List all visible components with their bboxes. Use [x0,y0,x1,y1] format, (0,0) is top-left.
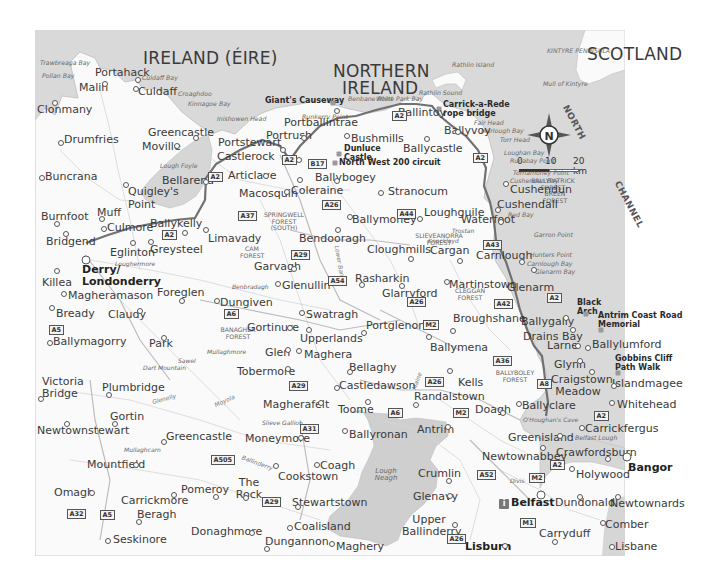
town-marker [47,340,53,346]
town-pomeroy[interactable]: Pomeroy [181,484,229,495]
poi-nw200[interactable]: North West 200 circuit [339,159,441,168]
poi-antrim-coast-road[interactable]: Antrim Coast Road Memorial [598,312,684,330]
poi-marker-antrim-coast-road[interactable] [599,328,604,333]
town-belfast[interactable]: Belfast [511,497,555,508]
town-drumfries[interactable]: Drumfries [64,134,119,145]
tourist-info-icon[interactable]: i [499,499,509,509]
town-derry[interactable]: Derry/ Londonderry [82,264,152,288]
town-marker [500,410,506,416]
town-toome[interactable]: Toome [338,404,374,415]
town-whitehead[interactable]: Whitehead [617,399,676,410]
town-stewartstown[interactable]: Stewartstown [292,497,367,508]
town-carryduff[interactable]: Carryduff [539,528,590,539]
town-cushendall[interactable]: Cushendall [497,199,558,210]
town-maghery[interactable]: Maghery [336,541,384,552]
town-burnfoot[interactable]: Burnfoot [41,211,88,222]
town-upperlands[interactable]: Upperlands [300,333,363,344]
town-articlave[interactable]: Articlave [228,170,277,181]
town-craigstown-meadow[interactable]: Craigstown Meadow [551,374,605,397]
town-bellaghy[interactable]: Bellaghy [349,362,397,373]
town-bready[interactable]: Bready [56,308,95,319]
town-islandmagee[interactable]: Islandmagee [612,378,683,389]
town-ballyronan[interactable]: Ballyronan [349,429,408,440]
town-marker [299,310,305,316]
town-bridgend[interactable]: Bridgend [46,236,96,247]
town-coalisland[interactable]: Coalisland [294,521,351,532]
town-greencastle-n[interactable]: Greencastle [148,127,214,138]
town-ballyclare[interactable]: Ballyclare [522,400,576,411]
town-clonmany[interactable]: Clonmany [37,104,92,115]
town-greysteel[interactable]: Greysteel [150,244,203,255]
town-quigleys-point[interactable]: Quigley's Point [128,186,188,211]
town-kells[interactable]: Kells [458,377,483,388]
town-carrickfergus[interactable]: Carrickfergus [585,423,658,434]
poi-marker-dunluce-castle[interactable] [337,152,342,157]
town-cargan[interactable]: Cargan [430,245,469,256]
town-greencastle-s[interactable]: Greencastle [166,431,232,442]
poi-gobbins[interactable]: Gobbins Cliff Path Walk [615,355,695,373]
town-magheramason[interactable]: Magheramason [68,290,153,301]
town-lisbane[interactable]: Lisbane [615,541,657,552]
town-bangor[interactable]: Bangor [628,462,673,473]
town-glenullin[interactable]: Glenullin [282,280,330,291]
town-loughguile[interactable]: Loughguile [424,207,484,218]
town-ballycastle[interactable]: Ballycastle [403,143,463,154]
town-dundonald[interactable]: Dundonald [555,497,615,508]
town-glenarm[interactable]: Glenarm [507,282,554,293]
town-marker [365,399,371,405]
town-newtownards[interactable]: Newtownards [610,498,685,509]
poi-marker-black-arch[interactable] [584,312,589,317]
town-foreglen[interactable]: Foreglen [157,287,205,298]
town-eglinton[interactable]: Eglinton [110,247,155,258]
town-marker [161,439,167,445]
town-cloughmills[interactable]: Cloughmills [367,244,431,255]
poi-marker-giants-causeway[interactable] [331,101,336,106]
town-carrickmore[interactable]: Carrickmore [121,495,188,506]
town-stranocum[interactable]: Stranocum [388,186,448,197]
town-dungannon[interactable]: Dungannon [265,536,329,547]
town-coleraine[interactable]: Coleraine [291,185,343,196]
town-victoria-bridge[interactable]: Victoria Bridge [42,376,87,399]
town-limavady[interactable]: Limavady [208,233,261,244]
town-randalstown[interactable]: Randalstown [414,391,485,402]
town-beragh[interactable]: Beragh [137,509,177,520]
town-cushendun[interactable]: Cushendun [510,184,572,195]
town-killea[interactable]: Killea [42,277,72,288]
town-holywood[interactable]: Holywood [576,469,630,480]
town-buncrana[interactable]: Buncrana [45,171,98,182]
town-ballyvoy[interactable]: Ballyvoy [444,125,491,136]
town-bendooragh[interactable]: Bendooragh [299,233,366,244]
road-shield-a6: A6 [224,309,239,319]
town-swatragh[interactable]: Swatragh [306,309,358,320]
town-ballymagorry[interactable]: Ballymagorry [53,336,126,347]
town-the-rock[interactable]: The Rock [234,477,264,500]
town-ballylumford[interactable]: Ballylumford [592,339,662,350]
town-ballykelly[interactable]: Ballykelly [150,218,202,229]
town-seskinore[interactable]: Seskinore [113,534,167,545]
town-portballintrae[interactable]: Portballintrae [284,117,358,128]
town-marker-major [82,256,91,265]
town-maghera[interactable]: Maghera [304,349,352,360]
town-marker [64,421,70,427]
town-greenisland[interactable]: Greenisland [508,432,574,443]
town-portahack[interactable]: Portahack [95,67,150,78]
town-dungiven[interactable]: Dungiven [220,297,273,308]
poi-marker-gobbins[interactable] [616,371,621,376]
town-crumlin[interactable]: Crumlin [418,468,461,479]
town-cookstown[interactable]: Cookstown [278,471,338,482]
town-broughshane[interactable]: Broughshane [453,313,526,324]
town-ballybogey[interactable]: Ballybogey [315,172,376,183]
town-plumbridge[interactable]: Plumbridge [102,382,165,393]
town-larne[interactable]: Larne [547,340,578,351]
poi-carrick-a-rede[interactable]: Carrick-a-Rede rope bridge [443,101,513,119]
town-castlerock[interactable]: Castlerock [217,151,275,162]
town-marker [287,325,293,331]
poi-marker-nw200[interactable] [333,161,338,166]
town-culdaff[interactable]: Culdaff [138,86,177,97]
town-culmore[interactable]: Culmore [107,222,153,233]
town-ballymena[interactable]: Ballymena [430,342,488,353]
town-comber[interactable]: Comber [605,519,648,530]
town-castledawson[interactable]: Castledawson [339,380,415,391]
town-bushmills[interactable]: Bushmills [351,133,404,144]
town-marker [182,230,188,236]
